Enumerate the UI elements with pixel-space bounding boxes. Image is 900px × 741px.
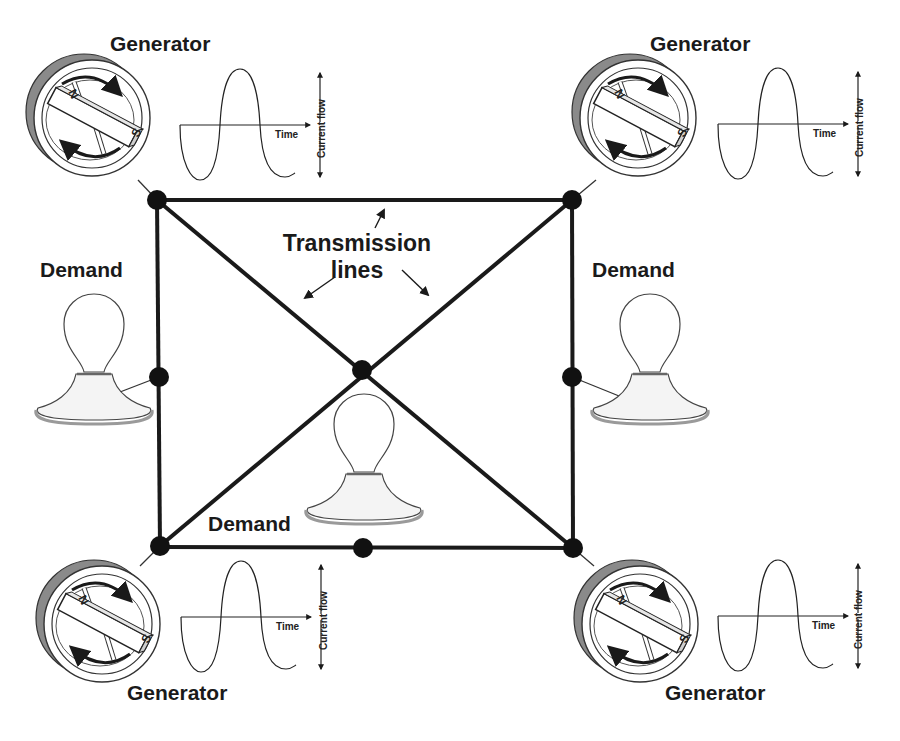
wave-current-label-bl: Current flow	[318, 591, 329, 650]
generator-label-top-left: Generator	[110, 32, 210, 56]
wave-time-label-tl: Time	[275, 129, 298, 140]
generator-label-top-right: Generator	[650, 32, 750, 56]
wave-current-label-tl: Current flow	[316, 99, 327, 158]
waveform-top-right	[718, 68, 858, 179]
generator-label-bottom-left: Generator	[127, 681, 227, 705]
node-center	[352, 360, 372, 380]
transmission-label-line1: Transmission	[282, 230, 432, 257]
wave-current-label-br: Current flow	[853, 590, 864, 649]
lightbulb-right	[592, 294, 708, 424]
lightbulb-left	[36, 294, 152, 424]
node-bottom-mid	[353, 538, 373, 558]
wave-time-label-bl: Time	[276, 621, 299, 632]
transmission-label-line2: lines	[282, 257, 432, 284]
waveform-bottom-right	[718, 560, 858, 671]
generator-top-right	[572, 54, 696, 176]
lightbulb-center	[306, 394, 422, 524]
node-top-right	[562, 190, 582, 210]
generator-bottom-right	[574, 560, 698, 682]
node-top-left	[147, 190, 167, 210]
node-bottom-left	[150, 536, 170, 556]
node-left-mid	[149, 367, 169, 387]
demand-label-left: Demand	[40, 258, 123, 282]
wave-time-label-tr: Time	[813, 128, 836, 139]
waveform-bottom-left	[181, 561, 321, 672]
demand-label-right: Demand	[592, 258, 675, 282]
wave-time-label-br: Time	[812, 620, 835, 631]
generator-top-left	[26, 54, 150, 176]
generator-bottom-left	[36, 560, 160, 682]
demand-label-center: Demand	[208, 512, 291, 536]
node-right-mid	[562, 367, 582, 387]
power-grid-diagram: N S N S N S N S	[0, 0, 900, 741]
waveform-top-left	[180, 69, 320, 180]
generator-label-bottom-right: Generator	[665, 681, 765, 705]
node-bottom-right	[563, 538, 583, 558]
wave-current-label-tr: Current flow	[854, 98, 865, 157]
transmission-lines-label: Transmission lines	[282, 230, 432, 284]
